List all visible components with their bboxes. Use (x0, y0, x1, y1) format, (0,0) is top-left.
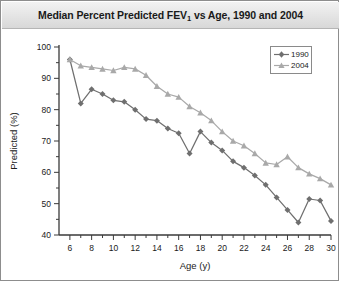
chart-title-bar: Median Percent Predicted FEV1 vs Age, 19… (2, 2, 339, 29)
data-point-marker (328, 182, 334, 188)
legend-label-1990: 1990 (290, 49, 309, 60)
series-1990 (67, 57, 334, 226)
y-tick-label: 90 (42, 73, 52, 83)
data-point-marker (284, 153, 290, 159)
data-point-marker (306, 171, 312, 177)
chart-legend: 1990 2004 (270, 46, 312, 74)
legend-key-diamond-icon (273, 49, 290, 60)
y-tick-label: 60 (42, 167, 52, 177)
legend-label-2004: 2004 (290, 60, 309, 71)
data-point-marker (197, 110, 203, 116)
data-point-marker (100, 91, 106, 97)
data-point-marker (110, 97, 116, 103)
data-point-marker (241, 143, 247, 149)
title-subscript: 1 (187, 14, 191, 23)
data-point-marker (317, 198, 323, 204)
x-tick-label: 18 (196, 243, 206, 253)
legend-item-1990: 1990 (273, 49, 308, 60)
title-main-text: Median Percent Predicted FEV (38, 9, 187, 21)
x-tick-label: 28 (305, 243, 315, 253)
series-2004 (67, 56, 335, 187)
series-line (70, 60, 331, 223)
x-tick-label: 30 (326, 243, 336, 253)
y-tick-label: 40 (42, 230, 52, 240)
x-tick-label: 22 (239, 243, 249, 253)
data-point-marker (306, 196, 312, 202)
chart-figure: Median Percent Predicted FEV1 vs Age, 19… (0, 0, 339, 281)
y-axis-title: Predicted (%) (8, 112, 19, 170)
page-title: Median Percent Predicted FEV1 vs Age, 19… (38, 9, 303, 21)
x-tick-label: 10 (109, 243, 119, 253)
data-point-marker (187, 151, 193, 157)
x-tick-label: 16 (174, 243, 184, 253)
data-point-marker (176, 130, 182, 136)
x-tick-label: 6 (68, 243, 73, 253)
x-tick-label: 12 (130, 243, 140, 253)
y-tick-label: 80 (42, 105, 52, 115)
data-point-marker (328, 218, 334, 224)
x-tick-label: 20 (217, 243, 227, 253)
y-tick-label: 100 (37, 42, 51, 52)
title-tail-text: vs Age, 1990 and 2004 (191, 9, 303, 21)
plot-area: 405060708090100681012141618202224262830A… (1, 29, 339, 281)
x-tick-label: 26 (283, 243, 293, 253)
x-tick-label: 24 (261, 243, 271, 253)
data-point-marker (143, 72, 149, 78)
series-line (70, 60, 331, 185)
y-tick-label: 70 (42, 136, 52, 146)
y-tick-label: 50 (42, 199, 52, 209)
x-tick-label: 14 (152, 243, 162, 253)
legend-key-triangle-icon (273, 60, 290, 71)
x-tick-label: 8 (89, 243, 94, 253)
legend-item-2004: 2004 (273, 60, 308, 71)
data-point-marker (317, 175, 323, 181)
x-axis-title: Age (y) (180, 260, 211, 271)
series-layer (67, 56, 335, 225)
